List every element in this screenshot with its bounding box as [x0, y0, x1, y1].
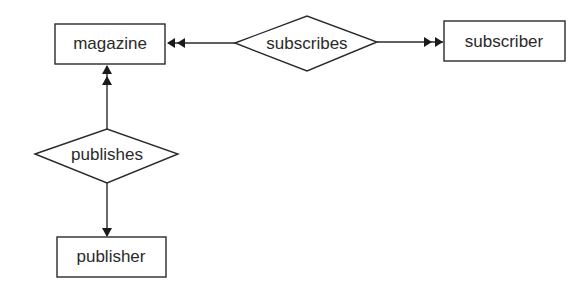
entity-magazine[interactable]: magazine — [55, 24, 165, 64]
relationship-publishes[interactable]: publishes — [35, 129, 178, 183]
arrowhead-icon — [102, 76, 112, 85]
entity-label: magazine — [73, 34, 147, 53]
connector-subscribes-subscriber — [377, 37, 443, 47]
entity-subscriber[interactable]: subscriber — [444, 21, 565, 61]
er-diagram: magazine subscribes subscriber publishes… — [0, 0, 585, 293]
entity-label: publisher — [77, 247, 146, 266]
arrowhead-icon — [167, 38, 175, 48]
connector-subscribes-magazine — [167, 38, 235, 48]
arrowhead-icon — [102, 228, 112, 237]
relationship-label: subscribes — [266, 34, 347, 53]
arrowhead-icon — [435, 37, 443, 47]
arrowhead-icon — [102, 65, 112, 74]
entity-label: subscriber — [465, 32, 544, 51]
connector-publishes-publisher — [102, 183, 112, 237]
entity-publisher[interactable]: publisher — [57, 237, 166, 277]
relationship-subscribes[interactable]: subscribes — [235, 16, 377, 71]
arrowhead-icon — [177, 38, 185, 48]
arrowhead-icon — [424, 37, 432, 47]
relationship-label: publishes — [71, 145, 143, 164]
connector-publishes-magazine — [102, 65, 112, 129]
